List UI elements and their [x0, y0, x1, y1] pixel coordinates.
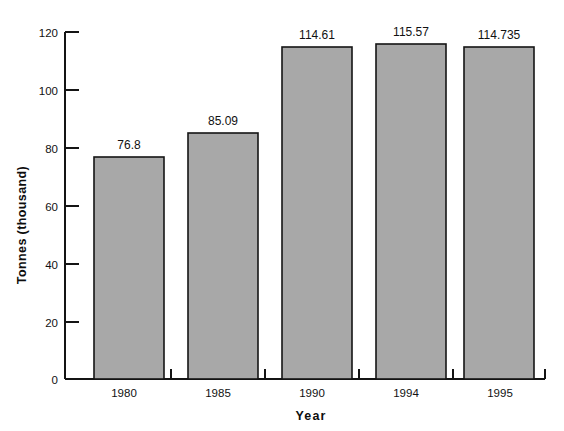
x-axis-title: Year [296, 409, 327, 423]
y-tick-label: 120 [39, 27, 58, 39]
bar-1995 [464, 47, 534, 379]
y-tick-label: 100 [39, 85, 58, 97]
value-label-1994: 115.57 [393, 25, 429, 39]
x-axis-tick-labels: 1980 1985 1990 1994 1995 [111, 387, 513, 399]
x-tick-label-1985: 1985 [205, 387, 231, 399]
x-tick-label-1980: 1980 [111, 387, 137, 399]
y-axis-title: Tonnes (thousand) [15, 166, 29, 284]
y-tick-label: 80 [45, 143, 58, 155]
value-label-1990: 114.61 [299, 28, 335, 42]
bars-group [94, 44, 534, 379]
bar-1994 [376, 44, 446, 379]
value-label-1985: 85.09 [208, 114, 238, 128]
y-tick-label: 0 [52, 374, 58, 386]
x-tick-label-1994: 1994 [393, 387, 419, 399]
value-label-1995: 114.735 [478, 28, 521, 42]
y-axis-tick-labels: 120 100 80 60 40 20 0 [39, 27, 58, 386]
y-axis-ticks [65, 32, 79, 322]
x-tick-label-1990: 1990 [299, 387, 325, 399]
y-tick-label: 20 [45, 317, 58, 329]
bar-1980 [94, 157, 164, 379]
y-tick-label: 60 [45, 201, 58, 213]
bar-chart: 120 100 80 60 40 20 0 76.8 85.09 [0, 0, 564, 431]
bar-1985 [188, 133, 258, 379]
value-label-1980: 76.8 [117, 138, 141, 152]
chart-canvas: 120 100 80 60 40 20 0 76.8 85.09 [0, 0, 564, 431]
bar-1990 [282, 47, 352, 379]
x-tick-label-1995: 1995 [487, 387, 513, 399]
y-tick-label: 40 [45, 259, 58, 271]
